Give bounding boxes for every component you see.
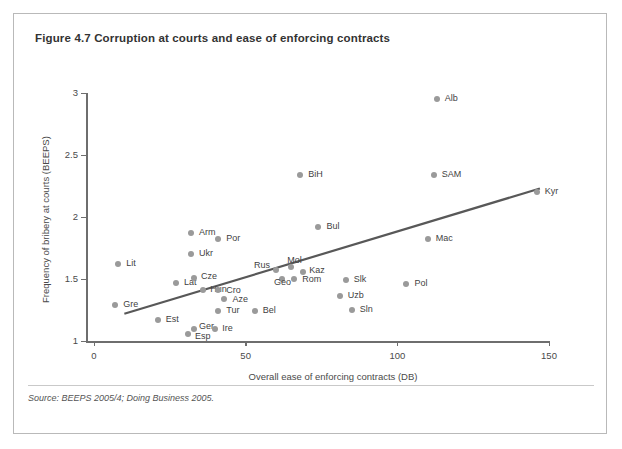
x-tick-mark xyxy=(94,341,96,346)
data-point-label: Kaz xyxy=(309,265,325,275)
data-point[interactable] xyxy=(300,269,306,275)
data-point-label: Ire xyxy=(222,323,233,333)
y-tick-label: 2.5 xyxy=(52,149,78,160)
data-point[interactable] xyxy=(425,236,431,242)
data-point[interactable] xyxy=(315,224,321,230)
scatter-plot: 11.522.53050100150 LitGreEstLatCzeEspGer… xyxy=(14,14,608,435)
data-point[interactable] xyxy=(273,267,279,273)
y-axis-title: Frequency of bribery at courts (BEEPS) xyxy=(40,136,51,303)
x-tick-label: 100 xyxy=(382,350,412,361)
data-point-label: SAM xyxy=(442,169,462,179)
data-point-label: Est xyxy=(166,314,179,324)
y-tick-label: 2 xyxy=(52,211,78,222)
data-point-label: Geo xyxy=(274,277,291,287)
data-point-label: BiH xyxy=(308,169,323,179)
x-tick-mark xyxy=(397,341,399,346)
data-point[interactable] xyxy=(200,287,206,293)
data-point-label: Cze xyxy=(201,271,217,281)
data-point[interactable] xyxy=(291,276,297,282)
data-point-label: Bul xyxy=(326,221,339,231)
x-tick-label: 0 xyxy=(79,350,109,361)
x-tick-mark xyxy=(245,341,247,346)
x-axis-title: Overall ease of enforcing contracts (DB) xyxy=(36,371,622,382)
data-point[interactable] xyxy=(343,277,349,283)
data-point[interactable] xyxy=(215,236,221,242)
data-point[interactable] xyxy=(212,326,218,332)
data-point[interactable] xyxy=(434,96,440,102)
y-axis-line xyxy=(86,93,88,342)
y-tick-label: 3 xyxy=(52,87,78,98)
data-point-label: Mol xyxy=(287,255,302,265)
data-point-label: Slk xyxy=(354,274,367,284)
x-tick-mark xyxy=(549,341,551,346)
data-point-label: Gre xyxy=(123,299,138,309)
x-axis-line xyxy=(86,341,549,343)
data-point[interactable] xyxy=(221,296,227,302)
data-point-label: Por xyxy=(226,233,240,243)
data-point-label: Pol xyxy=(414,278,427,288)
y-tick-label: 1.5 xyxy=(52,273,78,284)
data-point-label: Tur xyxy=(226,305,239,315)
source-note: Source: BEEPS 2005/4; Doing Business 200… xyxy=(28,393,214,403)
data-point[interactable] xyxy=(173,280,179,286)
data-point[interactable] xyxy=(215,308,221,314)
data-point[interactable] xyxy=(185,331,191,337)
data-point-label: Lit xyxy=(126,258,136,268)
y-tick-label: 1 xyxy=(52,335,78,346)
data-point-label: Rus xyxy=(254,260,270,270)
y-tick-mark xyxy=(81,341,86,343)
data-point-label: Sln xyxy=(360,304,373,314)
data-point[interactable] xyxy=(431,172,437,178)
data-point[interactable] xyxy=(297,172,303,178)
y-tick-mark xyxy=(81,155,86,157)
data-point-label: Bel xyxy=(263,305,276,315)
source-divider xyxy=(28,385,594,386)
data-point[interactable] xyxy=(188,230,194,236)
data-point-label: Ukr xyxy=(199,248,213,258)
data-point[interactable] xyxy=(349,307,355,313)
data-point-label: Rom xyxy=(302,274,321,284)
y-tick-mark xyxy=(81,217,86,219)
data-point[interactable] xyxy=(112,302,118,308)
data-point[interactable] xyxy=(534,189,540,195)
x-tick-label: 150 xyxy=(534,350,564,361)
data-point-label: Uzb xyxy=(348,290,364,300)
data-point[interactable] xyxy=(155,317,161,323)
data-point[interactable] xyxy=(252,308,258,314)
y-tick-mark xyxy=(81,279,86,281)
data-point-label: Alb xyxy=(445,93,458,103)
data-point-label: Esp xyxy=(195,331,211,341)
data-point[interactable] xyxy=(115,261,121,267)
data-point[interactable] xyxy=(191,326,197,332)
y-tick-mark xyxy=(81,93,86,95)
figure-frame: Figure 4.7 Corruption at courts and ease… xyxy=(13,13,607,434)
data-point-label: Arm xyxy=(199,227,216,237)
data-point[interactable] xyxy=(403,281,409,287)
data-point-label: Aze xyxy=(232,294,248,304)
data-point-label: Kyr xyxy=(545,186,559,196)
x-tick-label: 50 xyxy=(231,350,261,361)
data-point[interactable] xyxy=(188,251,194,257)
data-point[interactable] xyxy=(191,275,197,281)
data-point-label: Mac xyxy=(436,233,453,243)
data-point[interactable] xyxy=(337,293,343,299)
